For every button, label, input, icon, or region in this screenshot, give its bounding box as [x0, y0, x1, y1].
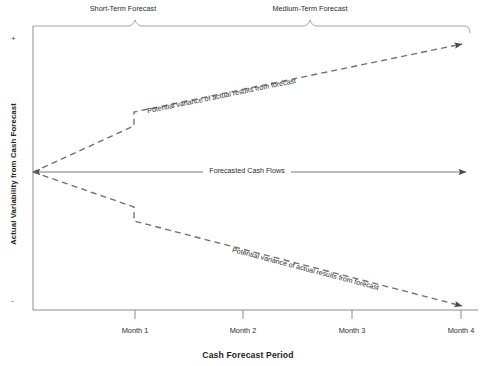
upper-variance-label: Potential variance of actual results fro… [147, 77, 297, 115]
cash-forecast-variability-chart: Short-Term Forecast Medium-Term Forecast… [0, 0, 486, 366]
lower-variance-line [33, 172, 462, 306]
brace-medium-term-label: Medium-Term Forecast [272, 4, 347, 13]
lower-variance-label: Potential variance of actual results fro… [231, 246, 380, 292]
x-tick-label-month-1: Month 1 [122, 326, 149, 335]
y-axis-plus-marker: + [11, 34, 16, 43]
center-line-label: Forecasted Cash Flows [209, 166, 285, 175]
y-axis-title: Actual Variability from Cash Forecast [9, 103, 18, 245]
brace-short-term: Short-Term Forecast [33, 4, 156, 26]
x-tick-label-month-2: Month 2 [230, 326, 257, 335]
brace-medium-term: Medium-Term Forecast [142, 4, 470, 33]
chart-canvas: Short-Term Forecast Medium-Term Forecast… [0, 0, 486, 366]
y-axis-minus-marker: - [11, 296, 14, 305]
x-axis-ticks [135, 310, 461, 319]
upper-variance-line [33, 44, 462, 172]
x-tick-label-month-3: Month 3 [339, 326, 366, 335]
brace-short-term-label: Short-Term Forecast [90, 4, 157, 13]
x-axis-title: Cash Forecast Period [202, 350, 293, 360]
x-tick-label-month-4: Month 4 [448, 326, 475, 335]
